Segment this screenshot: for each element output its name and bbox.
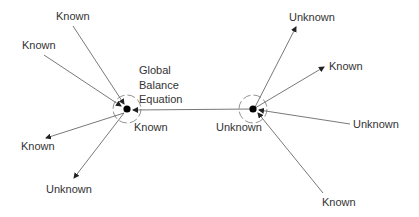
right-edge-label-unknown-top: Unknown xyxy=(289,11,335,24)
right-node-below-label: Unknown xyxy=(216,121,262,134)
edge-left-known-lower xyxy=(46,113,124,138)
left-edge-label-known-lower: Known xyxy=(21,140,55,153)
edge-left-known-top xyxy=(73,26,124,104)
left-edge-label-known-upper: Known xyxy=(22,39,56,52)
edge-right-unknown-right xyxy=(259,110,350,124)
connector-edge xyxy=(133,109,253,110)
global-balance-label-1: Global xyxy=(139,64,171,77)
edge-left-known-upper xyxy=(44,55,121,106)
edge-left-unknown xyxy=(74,113,124,178)
edge-right-known-bottom xyxy=(258,113,323,193)
left-edge-label-known-top: Known xyxy=(56,10,90,23)
right-edge-label-unknown-right: Unknown xyxy=(353,118,399,131)
right-edge-label-known-bottom: Known xyxy=(322,196,356,209)
right-edge-label-known: Known xyxy=(329,60,363,73)
global-balance-label-3: Equation xyxy=(139,93,182,106)
right-node xyxy=(249,105,256,112)
global-balance-label-2: Balance xyxy=(139,79,179,92)
left-node-below-label: Known xyxy=(134,121,168,134)
left-node xyxy=(123,105,130,112)
left-edge-label-unknown: Unknown xyxy=(46,183,92,196)
